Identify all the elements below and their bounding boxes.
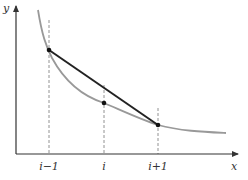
y-axis-label: y bbox=[2, 2, 10, 15]
point-i bbox=[102, 101, 107, 106]
tick-label-i-minus-1: i−1 bbox=[39, 160, 59, 173]
point-i-plus-1 bbox=[156, 123, 161, 128]
convex-curve bbox=[38, 10, 226, 133]
convexity-diagram: y x i−1 i i+1 bbox=[0, 0, 248, 180]
tick-label-i: i bbox=[102, 160, 106, 173]
secant-chord bbox=[49, 50, 158, 125]
x-axis-label: x bbox=[231, 160, 238, 173]
tick-label-i-plus-1: i+1 bbox=[148, 160, 168, 173]
point-i-minus-1 bbox=[47, 48, 52, 53]
